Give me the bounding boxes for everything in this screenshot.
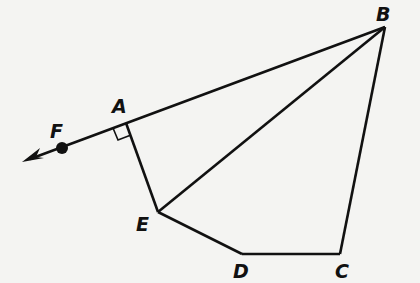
diagram-svg xyxy=(0,0,420,283)
geometry-diagram: B A F E D C xyxy=(0,0,420,283)
label-b: B xyxy=(376,5,390,24)
label-c: C xyxy=(335,262,349,281)
label-a: A xyxy=(112,97,127,116)
label-d: D xyxy=(233,262,249,281)
segment-cb xyxy=(340,27,385,254)
segment-ae xyxy=(126,123,158,212)
label-e: E xyxy=(136,215,149,234)
segment-eb xyxy=(158,27,385,212)
ray-bf xyxy=(30,27,385,159)
point-f xyxy=(56,142,68,154)
segment-ed xyxy=(158,212,242,254)
label-f: F xyxy=(50,122,63,141)
